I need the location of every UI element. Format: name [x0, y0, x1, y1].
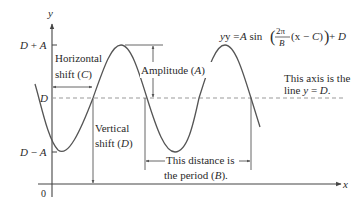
sinusoid-diagram: x y 0 D + A D D − A Horizontal shift (C)…	[0, 0, 364, 209]
equation: yy = A sin ( 2π B (x − C) ) + D	[219, 26, 346, 48]
period-label: This distance is	[166, 154, 234, 166]
vertical-shift-label-2: shift (D)	[95, 137, 133, 150]
y-axis-label: y	[47, 7, 53, 19]
axis-note-line2: line y = D.	[284, 84, 331, 96]
horizontal-shift-label: Horizontal	[55, 52, 102, 64]
tick-label-max: D + A	[19, 39, 47, 51]
svg-text:yy =: yy =	[219, 30, 239, 42]
tick-label-min: D − A	[19, 146, 47, 158]
amplitude-label: Amplitude (A)	[141, 64, 205, 77]
horizontal-shift-label-2: shift (C)	[55, 68, 92, 81]
axis-note-line1: This axis is the	[284, 72, 350, 84]
svg-text:A sin: A sin	[239, 30, 263, 42]
equation-frac-num: 2π	[276, 26, 286, 36]
svg-text:(x − C): (x − C)	[291, 30, 323, 43]
equation-frac-den: B	[279, 38, 285, 48]
vertical-shift-label: Vertical	[95, 122, 129, 134]
svg-text:+ D: + D	[329, 30, 346, 42]
svg-text:(: (	[270, 28, 275, 46]
period-label-2: the period (B).	[164, 169, 228, 182]
origin-label: 0	[41, 188, 46, 199]
x-axis-label: x	[342, 178, 348, 190]
